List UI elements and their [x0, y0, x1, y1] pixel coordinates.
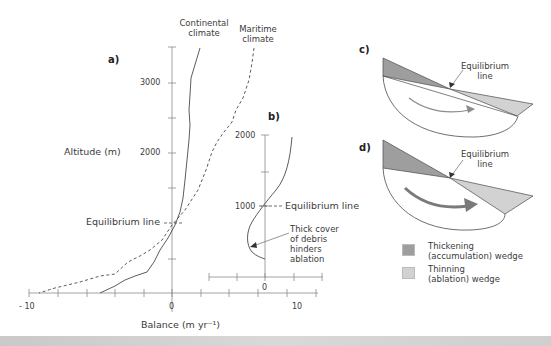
- x-tick-10: 10: [292, 302, 302, 311]
- debris-annotation-arrowhead: [250, 242, 257, 248]
- debris-covered-balance-curve: [248, 137, 293, 259]
- b-y-tick-2000: 2000: [235, 131, 255, 140]
- maritime-climate-label: Maritime climate: [235, 24, 281, 44]
- legend-swatch-thickening: [402, 244, 415, 256]
- panel-c-tag: c): [359, 44, 370, 55]
- continental-climate-label: Continental climate: [176, 18, 232, 38]
- y-tick-2000: 2000: [140, 148, 160, 157]
- figure-graphics: [0, 0, 551, 346]
- balance-axis-label: Balance (m yr⁻¹): [141, 320, 220, 330]
- legend-thinning-line2: (ablation) wedge: [428, 274, 500, 284]
- panel-b-y-axis: [261, 135, 269, 278]
- debris-annotation-line2: of debris: [290, 234, 339, 244]
- legend-label-thinning: Thinning (ablation) wedge: [428, 264, 500, 284]
- panel-a-tag: a): [108, 54, 119, 65]
- panel-c-eq-line2: line: [455, 71, 515, 81]
- y-tick-3000: 3000: [140, 78, 160, 87]
- b-y-tick-1000: 1000: [235, 202, 255, 211]
- panel-b-x-axis: [209, 273, 323, 281]
- maritime-label-line1: Maritime: [235, 24, 281, 34]
- continental-label-line1: Continental: [176, 18, 232, 28]
- panel-d-eq-line1: Equilibrium: [455, 149, 515, 159]
- panel-b-equilibrium-label: Equilibrium line: [285, 201, 359, 211]
- legend-thickening-line1: Thickening: [428, 241, 523, 251]
- legend-thickening-line2: (accumulation) wedge: [428, 251, 523, 261]
- legend-swatch-thinning: [402, 267, 415, 279]
- panel-d-tag: d): [359, 142, 371, 153]
- panel-b-tag: b): [268, 111, 280, 122]
- debris-annotation-leader: [253, 233, 289, 246]
- maritime-label-line2: climate: [235, 34, 281, 44]
- panel-c-eq-line1: Equilibrium: [455, 61, 515, 71]
- legend-thinning-line1: Thinning: [428, 264, 500, 274]
- panel-a-y-axis: [168, 47, 176, 312]
- panel-a-x-axis: [29, 289, 318, 297]
- debris-annotation-line3: hinders: [290, 244, 339, 254]
- debris-annotation: Thick cover of debris hinders ablation: [290, 224, 339, 264]
- x-tick-minus-10: - 10: [19, 302, 35, 311]
- debris-annotation-line4: ablation: [290, 254, 339, 264]
- altitude-axis-label: Altitude (m): [64, 147, 121, 157]
- panel-d-equilibrium-label: Equilibrium line: [455, 149, 515, 169]
- glacier-mass-balance-figure: a) Continental climate Maritime climate …: [0, 0, 551, 346]
- panel-d-equilibrium-arrowhead: [449, 172, 455, 178]
- bottom-border-band: [0, 336, 551, 346]
- panel-c-equilibrium-arrowhead: [449, 82, 455, 88]
- x-tick-0: 0: [169, 302, 174, 311]
- panel-c-equilibrium-label: Equilibrium line: [455, 61, 515, 81]
- continental-label-line2: climate: [176, 28, 232, 38]
- panel-d-eq-line2: line: [455, 159, 515, 169]
- debris-annotation-line1: Thick cover: [290, 224, 339, 234]
- legend-label-thickening: Thickening (accumulation) wedge: [428, 241, 523, 261]
- b-x-tick-0: 0: [262, 283, 267, 292]
- panel-a-equilibrium-label: Equilibrium line: [86, 217, 160, 227]
